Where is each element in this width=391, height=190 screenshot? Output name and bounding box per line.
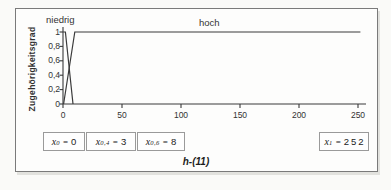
hoch-curve <box>64 32 361 104</box>
value-box-x1: x1 = 252 <box>319 132 369 151</box>
value-box-x04: x0,4 = 3 <box>86 132 136 151</box>
x-tick-label: 0 <box>51 110 75 121</box>
math-sub: 1 <box>329 139 333 146</box>
y-tick-label: 0 <box>34 99 60 110</box>
y-tick-label: 0,4 <box>34 70 60 81</box>
math-sub: 0,6 <box>150 139 160 146</box>
y-tick-label: 0,2 <box>34 84 60 95</box>
value-box-x0: x0 = 0 <box>43 132 85 151</box>
plot-svg <box>46 24 379 119</box>
math-value: 252 <box>344 136 366 147</box>
math-sub: 0,4 <box>100 139 110 146</box>
equals-sign: = <box>336 137 341 147</box>
math-value: 3 <box>121 136 126 147</box>
x-tick-label: 200 <box>287 110 311 121</box>
math-sub: 0 <box>56 139 60 146</box>
x-tick-label: 150 <box>228 110 252 121</box>
equals-sign: = <box>63 137 68 147</box>
x-tick-label: 250 <box>346 110 370 121</box>
figure-frame: Zugehörigkeitsgrad niedrig hoch 00,20,40… <box>15 8 378 172</box>
math-value: 0 <box>71 136 76 147</box>
x-tick-label: 50 <box>110 110 134 121</box>
x-tick-label: 100 <box>169 110 193 121</box>
figure-caption: h-(11) <box>156 156 236 167</box>
y-tick-label: 1 <box>34 27 60 38</box>
y-tick-label: 0,8 <box>34 41 60 52</box>
niedrig-curve <box>63 32 73 104</box>
math-value: 8 <box>171 136 176 147</box>
y-tick-label: 0,6 <box>34 55 60 66</box>
equals-sign: = <box>113 137 118 147</box>
equals-sign: = <box>163 137 168 147</box>
value-box-x06: x0,6 = 8 <box>137 132 185 151</box>
